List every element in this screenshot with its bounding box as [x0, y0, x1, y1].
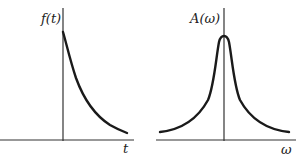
right-plot: A(ω) ω — [156, 8, 296, 157]
decay-curve — [63, 32, 127, 133]
left-y-label: f(t) — [40, 11, 61, 26]
left-x-label: t — [123, 141, 129, 156]
right-y-label: A(ω) — [189, 11, 220, 26]
figure: f(t) t A(ω) ω — [0, 0, 307, 162]
right-x-label: ω — [281, 142, 292, 157]
left-plot: f(t) t — [0, 8, 134, 156]
